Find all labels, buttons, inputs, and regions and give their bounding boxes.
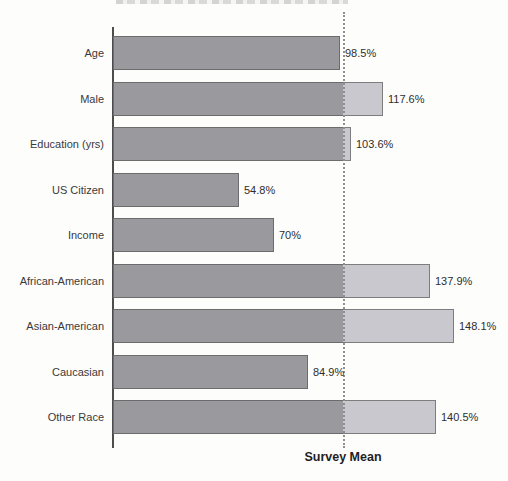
- category-label: Education (yrs): [0, 127, 104, 161]
- bar-overflow-segment: [343, 82, 383, 116]
- value-label: 148.1%: [459, 309, 496, 343]
- value-label: 103.6%: [356, 127, 393, 161]
- value-label: 137.9%: [435, 264, 472, 298]
- category-label: Asian-American: [0, 309, 104, 343]
- category-label: Income: [0, 218, 104, 252]
- category-label: Male: [0, 82, 104, 116]
- category-label: US Citizen: [0, 173, 104, 207]
- value-label: 84.9%: [313, 355, 344, 389]
- bar-caucasian: [113, 355, 308, 389]
- value-label: 54.8%: [244, 173, 275, 207]
- value-label: 117.6%: [388, 82, 425, 116]
- bar-overflow-segment: [343, 264, 430, 298]
- bar-us-citizen: [113, 173, 239, 207]
- category-label: Other Race: [0, 400, 104, 434]
- bar-education-yrs-: [113, 127, 351, 161]
- value-label: 140.5%: [441, 400, 478, 434]
- cropped-header-text-remnant: [116, 0, 348, 4]
- bar-asian-american: [113, 309, 454, 343]
- bar-african-american: [113, 264, 430, 298]
- bar-age: [113, 36, 340, 70]
- bar-overflow-segment: [343, 400, 436, 434]
- bar-income: [113, 218, 274, 252]
- category-label: Age: [0, 36, 104, 70]
- value-label: 70%: [279, 218, 301, 252]
- chart-page: Age98.5%Male117.6%Education (yrs)103.6%U…: [0, 0, 508, 481]
- value-label: 98.5%: [345, 36, 376, 70]
- survey-mean-label: Survey Mean: [263, 450, 423, 464]
- category-label: Caucasian: [0, 355, 104, 389]
- bar-overflow-segment: [343, 309, 454, 343]
- category-label: African-American: [0, 264, 104, 298]
- bar-other-race: [113, 400, 436, 434]
